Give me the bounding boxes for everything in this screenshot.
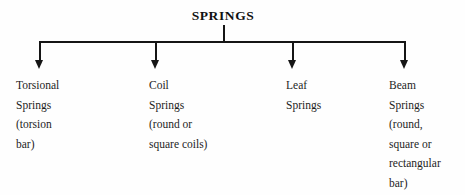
leaf-line: Springs <box>149 96 207 116</box>
leaf-label-torsional: Torsional Springs (torsion bar) <box>16 76 59 154</box>
down-arrow-icon-torsional <box>35 60 43 69</box>
leaf-line: rectangular <box>389 154 441 174</box>
leaf-label-leaf: Leaf Springs <box>286 76 321 115</box>
down-arrow-icon-coil <box>151 60 159 69</box>
leaf-label-beam: Beam Springs (round, square or rectangul… <box>389 76 441 193</box>
leaf-line: Coil <box>149 76 207 96</box>
root-connector-stem <box>223 25 225 42</box>
down-arrow-icon-beam <box>400 60 408 69</box>
leaf-line: Torsional <box>16 76 59 96</box>
leaf-line: bar) <box>16 135 59 155</box>
leaf-line: bar) <box>389 174 441 194</box>
leaf-line: (round, <box>389 115 441 135</box>
branch-stem-beam <box>404 41 406 62</box>
leaf-line: Springs <box>389 96 441 116</box>
leaf-line: Beam <box>389 76 441 96</box>
branch-stem-coil <box>155 41 157 62</box>
horizontal-connector-bar <box>39 41 406 43</box>
leaf-label-coil: Coil Springs (round or square coils) <box>149 76 207 154</box>
branch-stem-leaf <box>292 41 294 62</box>
leaf-line: Springs <box>286 96 321 116</box>
diagram-canvas: SPRINGS Torsional Springs (torsion bar) … <box>0 0 465 195</box>
leaf-line: square or <box>389 135 441 155</box>
leaf-line: square coils) <box>149 135 207 155</box>
leaf-line: (torsion <box>16 115 59 135</box>
branch-stem-torsional <box>39 41 41 62</box>
root-node-label: SPRINGS <box>192 8 255 24</box>
leaf-line: Springs <box>16 96 59 116</box>
leaf-line: Leaf <box>286 76 321 96</box>
leaf-line: (round or <box>149 115 207 135</box>
down-arrow-icon-leaf <box>288 60 296 69</box>
